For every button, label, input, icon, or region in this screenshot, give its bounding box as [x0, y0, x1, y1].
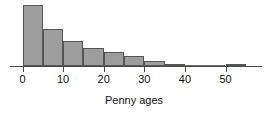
x-axis-tick [226, 67, 227, 72]
x-axis-tick [144, 67, 145, 72]
x-axis-tick-label: 30 [129, 73, 159, 86]
histogram-figure: 01020304050 Penny ages [0, 0, 268, 132]
histogram-bar [124, 56, 144, 66]
x-axis-tick [63, 67, 64, 72]
histogram-bar [226, 64, 246, 66]
x-axis-tick [23, 67, 24, 72]
histogram-bar [165, 64, 185, 66]
x-axis-tick [104, 67, 105, 72]
x-axis-tick-label: 0 [8, 73, 38, 86]
x-axis-title: Penny ages [0, 93, 268, 107]
x-axis-line [10, 66, 262, 67]
plot-area: 01020304050 [0, 0, 268, 132]
histogram-bar [185, 65, 205, 66]
histogram-bar [83, 48, 103, 66]
histogram-bar [43, 29, 63, 66]
histogram-bar [144, 61, 164, 66]
histogram-bar [205, 65, 225, 66]
x-axis-tick-label: 20 [89, 73, 119, 86]
histogram-bar [63, 41, 83, 66]
x-axis-tick-label: 40 [170, 73, 200, 86]
x-axis-tick-label: 50 [211, 73, 241, 86]
histogram-bar [23, 5, 43, 66]
x-axis-tick-label: 10 [48, 73, 78, 86]
histogram-bar [104, 52, 124, 66]
x-axis-tick [185, 67, 186, 72]
